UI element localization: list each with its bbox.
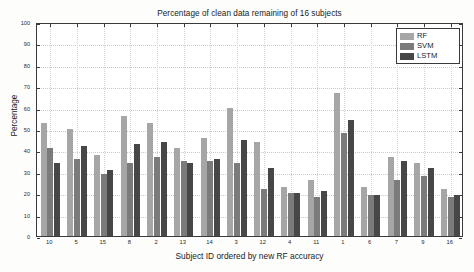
- bar-rf-11: [308, 180, 314, 236]
- bar-svm-7: [394, 180, 400, 236]
- x-tick-mark: [77, 24, 78, 27]
- bar-lstm-9: [428, 168, 434, 236]
- x-tick-label: 9: [421, 239, 424, 245]
- bar-lstm-15: [107, 170, 113, 236]
- y-tick-mark: [459, 152, 462, 153]
- x-tick-label: 7: [395, 239, 398, 245]
- y-tick-label: 10: [24, 213, 30, 219]
- bar-rf-9: [414, 163, 420, 236]
- x-tick-mark: [157, 24, 158, 27]
- bar-lstm-10: [54, 163, 60, 236]
- bar-svm-16: [448, 197, 454, 236]
- legend-item-svm[interactable]: SVM: [400, 41, 456, 51]
- x-tick-mark: [264, 24, 265, 27]
- bar-rf-13: [174, 148, 180, 236]
- x-tick-label: 4: [288, 239, 291, 245]
- x-tick-label: 16: [446, 239, 452, 245]
- y-tick-mark: [37, 110, 40, 111]
- bar-svm-14: [207, 161, 213, 236]
- x-tick-mark: [317, 24, 318, 27]
- y-tick-mark: [37, 174, 40, 175]
- bar-rf-3: [227, 108, 233, 236]
- bar-svm-11: [314, 197, 320, 236]
- bar-rf-2: [147, 123, 153, 236]
- bar-rf-1: [334, 93, 340, 236]
- x-tick-mark: [291, 24, 292, 27]
- bar-rf-8: [121, 116, 127, 236]
- x-tick-label: 8: [128, 239, 131, 245]
- bar-rf-7: [388, 157, 394, 236]
- bar-svm-1: [341, 133, 347, 236]
- bar-lstm-2: [161, 142, 167, 236]
- y-tick-label: 50: [24, 127, 30, 133]
- bar-svm-10: [47, 148, 53, 236]
- bar-rf-10: [41, 123, 47, 236]
- y-tick-mark: [37, 152, 40, 153]
- y-tick-mark: [37, 24, 40, 25]
- y-tick-mark: [459, 88, 462, 89]
- bar-lstm-8: [134, 144, 140, 236]
- legend: RFSVMLSTM: [396, 28, 460, 64]
- chart-title: Percentage of clean data remaining of 16…: [36, 9, 463, 18]
- legend-item-rf[interactable]: RF: [400, 31, 456, 41]
- y-tick-mark: [37, 195, 40, 196]
- y-tick-mark: [459, 67, 462, 68]
- x-tick-mark: [130, 24, 131, 27]
- bar-svm-6: [368, 195, 374, 236]
- bar-lstm-3: [241, 140, 247, 236]
- y-tick-label: 20: [24, 191, 30, 197]
- bar-rf-6: [361, 187, 367, 236]
- bar-svm-9: [421, 176, 427, 236]
- x-tick-mark: [184, 24, 185, 27]
- x-tick-mark: [371, 24, 372, 27]
- bar-rf-16: [441, 189, 447, 236]
- x-tick-mark: [237, 24, 238, 27]
- y-tick-label: 90: [24, 41, 30, 47]
- y-tick-label: 100: [21, 20, 30, 26]
- bar-lstm-16: [454, 195, 460, 236]
- x-tick-label: 11: [313, 239, 319, 245]
- x-tick-mark: [210, 24, 211, 27]
- y-tick-label: 70: [24, 84, 30, 90]
- bar-svm-5: [74, 159, 80, 236]
- bar-svm-15: [101, 174, 107, 236]
- bar-lstm-5: [81, 146, 87, 236]
- legend-swatch-svm: [400, 43, 414, 50]
- bar-lstm-6: [374, 195, 380, 236]
- legend-swatch-rf: [400, 33, 414, 40]
- y-tick-label: 40: [24, 148, 30, 154]
- bar-lstm-14: [214, 159, 220, 236]
- bar-rf-12: [254, 142, 260, 236]
- x-tick-mark: [424, 24, 425, 27]
- x-tick-label: 13: [180, 239, 186, 245]
- bar-lstm-4: [294, 193, 300, 236]
- y-tick-mark: [37, 67, 40, 68]
- x-tick-label: 15: [99, 239, 105, 245]
- bar-svm-2: [154, 157, 160, 236]
- x-axis-tick-labels: 10515821314312411167916: [36, 239, 463, 249]
- bar-lstm-11: [321, 191, 327, 236]
- x-tick-label: 14: [206, 239, 212, 245]
- bar-lstm-12: [268, 168, 274, 236]
- figure-canvas: Percentage of clean data remaining of 16…: [0, 0, 474, 272]
- x-tick-label: 3: [235, 239, 238, 245]
- bar-rf-4: [281, 187, 287, 236]
- bar-lstm-7: [401, 161, 407, 236]
- x-tick-mark: [451, 24, 452, 27]
- y-tick-label: 60: [24, 106, 30, 112]
- x-tick-label: 10: [46, 239, 52, 245]
- x-axis-label: Subject ID ordered by new RF accuracy: [36, 251, 463, 261]
- legend-item-lstm[interactable]: LSTM: [400, 51, 456, 61]
- bar-svm-8: [127, 163, 133, 236]
- bar-rf-14: [201, 138, 207, 236]
- x-tick-mark: [397, 24, 398, 27]
- y-tick-mark: [37, 45, 40, 46]
- y-tick-mark: [459, 24, 462, 25]
- bar-svm-13: [181, 161, 187, 236]
- y-tick-mark: [37, 88, 40, 89]
- y-tick-label: 0: [27, 234, 30, 240]
- legend-label: RF: [417, 32, 427, 40]
- bar-rf-15: [94, 155, 100, 236]
- y-tick-mark: [459, 174, 462, 175]
- bar-svm-4: [288, 193, 294, 236]
